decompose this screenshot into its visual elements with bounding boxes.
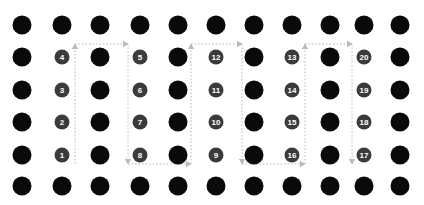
grid-dot [245,16,264,35]
grid-dot [391,48,410,67]
marker-label: 5 [138,53,143,62]
grid-dot [391,81,410,100]
dot-grid-diagram: 1234567891011121314151617181920 [0,0,424,205]
grid-dot [355,16,374,35]
grid-dot [169,16,188,35]
grid-dot [13,113,32,132]
marker-label: 3 [60,86,65,95]
grid-dot [283,16,302,35]
grid-dot [169,177,188,196]
marker-label: 9 [214,151,219,160]
grid-dot [53,177,72,196]
grid-dot [169,81,188,100]
marker-label: 4 [60,53,65,62]
grid-dot [245,81,264,100]
numbered-marker[interactable]: 10 [209,115,224,130]
marker-label: 18 [360,118,369,127]
marker-label: 12 [212,53,221,62]
grid-dot [321,177,340,196]
numbered-marker[interactable]: 9 [209,148,224,163]
figure-canvas: 1234567891011121314151617181920 [0,0,424,205]
numbered-marker[interactable]: 2 [55,115,70,130]
marker-label: 6 [138,86,143,95]
numbered-marker[interactable]: 13 [285,50,300,65]
arrow-head-down [349,159,355,165]
grid-dot [91,146,110,165]
grid-dot [169,48,188,67]
grid-dot [321,81,340,100]
grid-dot [13,16,32,35]
marker-label: 17 [360,151,369,160]
numbered-marker[interactable]: 8 [133,148,148,163]
numbered-marker[interactable]: 11 [209,83,224,98]
marker-label: 19 [360,86,369,95]
numbered-marker[interactable]: 4 [55,50,70,65]
grid-dot [391,16,410,35]
marker-label: 20 [360,53,369,62]
numbered-marker[interactable]: 12 [209,50,224,65]
grid-dot [321,16,340,35]
numbered-marker[interactable]: 7 [133,115,148,130]
grid-dot [283,177,302,196]
numbered-marker[interactable]: 15 [285,115,300,130]
marker-label: 2 [60,118,65,127]
numbered-marker[interactable]: 5 [133,50,148,65]
grid-dot [169,146,188,165]
grid-dot [245,113,264,132]
grid-dot [91,113,110,132]
grid-dot [245,48,264,67]
numbered-marker-layer: 1234567891011121314151617181920 [55,50,372,163]
numbered-marker[interactable]: 17 [357,148,372,163]
grid-dot [391,113,410,132]
grid-dot [207,177,226,196]
grid-dot [53,16,72,35]
grid-dot [131,177,150,196]
grid-dot [91,16,110,35]
marker-label: 11 [212,86,221,95]
numbered-marker[interactable]: 3 [55,83,70,98]
grid-dot [245,146,264,165]
numbered-marker[interactable]: 20 [357,50,372,65]
numbered-marker[interactable]: 19 [357,83,372,98]
grid-dot [391,146,410,165]
grid-dot [91,177,110,196]
grid-dot [321,113,340,132]
dot-grid-layer [13,16,410,196]
numbered-marker[interactable]: 1 [55,148,70,163]
grid-dot [391,177,410,196]
marker-label: 13 [288,53,297,62]
grid-dot [91,81,110,100]
numbered-marker[interactable]: 16 [285,148,300,163]
grid-dot [13,146,32,165]
marker-label: 16 [288,151,297,160]
numbered-marker[interactable]: 18 [357,115,372,130]
marker-label: 1 [60,151,65,160]
marker-label: 7 [138,118,143,127]
marker-label: 15 [288,118,297,127]
grid-dot [169,113,188,132]
grid-dot [321,146,340,165]
grid-dot [131,16,150,35]
grid-dot [13,48,32,67]
grid-dot [207,16,226,35]
numbered-marker[interactable]: 14 [285,83,300,98]
grid-dot [91,48,110,67]
marker-label: 14 [288,86,297,95]
grid-dot [355,177,374,196]
grid-dot [321,48,340,67]
grid-dot [13,177,32,196]
grid-dot [13,81,32,100]
marker-label: 10 [212,118,221,127]
grid-dot [245,177,264,196]
marker-label: 8 [138,151,143,160]
numbered-marker[interactable]: 6 [133,83,148,98]
